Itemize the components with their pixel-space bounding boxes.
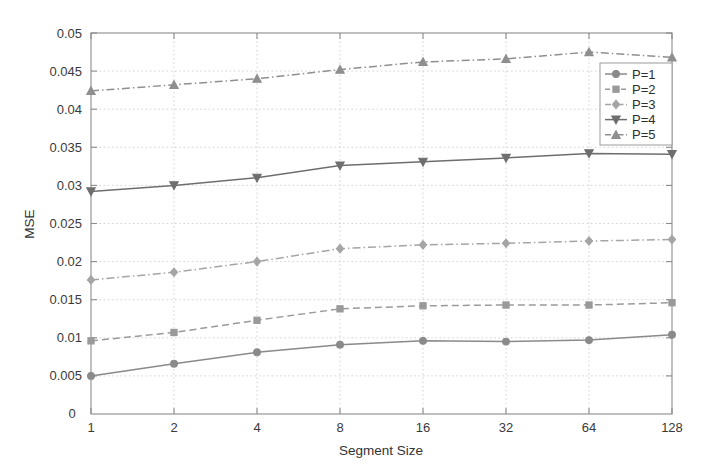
- y-tick-label: 0.025: [49, 216, 82, 231]
- data-point-marker: [503, 302, 509, 308]
- data-point-marker: [586, 337, 593, 344]
- data-point-marker: [170, 268, 177, 276]
- mse-vs-segment-size-line-chart: 0.0050.010.0150.020.0250.030.0350.040.04…: [0, 0, 712, 472]
- chart-figure: 0.0050.010.0150.020.0250.030.0350.040.04…: [0, 0, 712, 472]
- legend: P=1P=2P=3P=4P=5: [600, 63, 672, 145]
- series-line: [91, 335, 672, 376]
- legend-label: P=3: [632, 97, 656, 112]
- data-point-marker: [503, 338, 510, 345]
- x-axis-tick-labels: 1248163264128: [87, 420, 682, 435]
- series-p3: [87, 235, 675, 284]
- data-point-marker: [171, 329, 177, 335]
- data-point-marker: [337, 341, 344, 348]
- x-tick-label: 1: [87, 420, 94, 435]
- x-tick-label: 64: [582, 420, 596, 435]
- x-tick-label: 4: [253, 420, 260, 435]
- data-series-layer: [87, 48, 676, 379]
- data-point-marker: [87, 276, 94, 284]
- data-point-marker: [253, 257, 260, 265]
- data-point-marker: [419, 241, 426, 249]
- data-point-marker: [420, 337, 427, 344]
- x-tick-label: 2: [170, 420, 177, 435]
- series-p4: [87, 150, 676, 196]
- y-tick-label: 0.02: [57, 254, 82, 269]
- data-point-marker: [336, 244, 343, 252]
- y-tick-label: 0.05: [57, 26, 82, 41]
- data-point-marker: [171, 360, 178, 367]
- series-line: [91, 303, 672, 341]
- data-point-marker: [668, 235, 675, 243]
- data-point-marker: [88, 338, 94, 344]
- legend-label: P=4: [632, 112, 656, 127]
- y-axis-tick-labels: 0.0050.010.0150.020.0250.030.0350.040.04…: [49, 26, 82, 384]
- data-point-marker: [254, 317, 260, 323]
- origin-tick-label: 0: [68, 406, 75, 421]
- series-line: [91, 240, 672, 280]
- legend-label: P=5: [632, 127, 656, 142]
- x-axis-title: Segment Size: [339, 443, 423, 458]
- data-point-marker: [586, 302, 592, 308]
- data-point-marker: [88, 373, 95, 380]
- data-point-marker: [502, 239, 509, 247]
- y-tick-label: 0.035: [49, 140, 82, 155]
- y-tick-label: 0.015: [49, 292, 82, 307]
- x-tick-label: 128: [661, 420, 683, 435]
- data-point-marker: [420, 303, 426, 309]
- data-point-marker: [669, 300, 675, 306]
- gridlines: [91, 33, 672, 414]
- legend-label: P=2: [632, 82, 656, 97]
- data-point-marker: [669, 331, 676, 338]
- y-tick-label: 0.005: [49, 368, 82, 383]
- y-tick-label: 0.045: [49, 64, 82, 79]
- y-tick-label: 0.04: [57, 102, 82, 117]
- legend-label: P=1: [632, 67, 656, 82]
- x-tick-label: 8: [336, 420, 343, 435]
- series-p1: [88, 331, 676, 379]
- data-point-marker: [585, 237, 592, 245]
- data-point-marker: [254, 349, 261, 356]
- x-tick-label: 16: [416, 420, 430, 435]
- y-tick-label: 0.03: [57, 178, 82, 193]
- data-point-marker: [253, 75, 261, 83]
- legend-marker-sample: [613, 71, 620, 78]
- legend-marker-sample: [613, 86, 619, 92]
- x-tick-label: 32: [499, 420, 513, 435]
- y-tick-label: 0.01: [57, 330, 82, 345]
- data-point-marker: [337, 306, 343, 312]
- y-axis-title: MSE: [22, 209, 37, 238]
